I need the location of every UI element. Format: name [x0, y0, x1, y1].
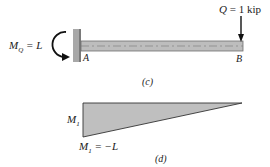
- moment-ordinate-label: M1: [67, 114, 80, 128]
- cantilever-beam: [81, 41, 243, 51]
- figure-c-caption: (c): [142, 77, 153, 87]
- moment-arrow-icon: [52, 32, 70, 61]
- free-end-label: B: [236, 54, 242, 64]
- point-load-arrow-icon: [238, 16, 244, 42]
- applied-moment-label: MQ = L: [9, 40, 42, 54]
- point-load-label: Q = 1 kip: [219, 4, 261, 15]
- fixed-support-wall: [73, 29, 81, 62]
- support-point-label: A: [83, 53, 89, 63]
- moment-value-label: M1 = −L: [79, 141, 118, 155]
- figure-d-caption: (d): [155, 154, 167, 164]
- moment-diagram-triangle: [83, 103, 242, 137]
- diagram-canvas: [0, 0, 270, 167]
